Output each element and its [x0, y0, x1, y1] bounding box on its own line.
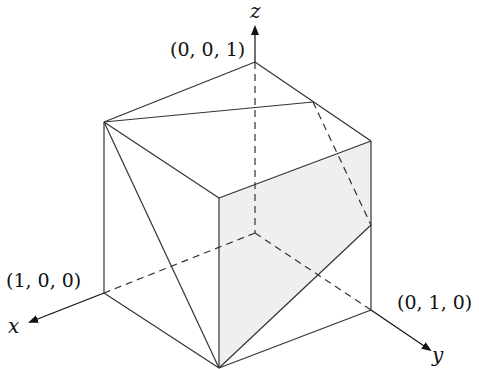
x-axis-arrow	[30, 293, 104, 322]
edge-top-diagonal	[104, 102, 313, 122]
vertex-label-z-unit: (0, 0, 1)	[170, 38, 245, 60]
shaded-face	[219, 141, 371, 368]
vertex-label-x-unit: (1, 0, 0)	[6, 269, 81, 291]
edge-top-back-left	[104, 62, 255, 122]
x-axis-label: x	[8, 314, 19, 338]
cube-diagram: z x y (0, 0, 1) (1, 0, 0) (0, 1, 0)	[0, 0, 479, 369]
z-axis-label: z	[249, 0, 261, 23]
vertex-label-y-unit: (0, 1, 0)	[397, 291, 472, 313]
y-axis-arrow	[371, 310, 430, 350]
y-axis-label: y	[431, 343, 444, 367]
edge-top-back-right	[255, 62, 371, 141]
